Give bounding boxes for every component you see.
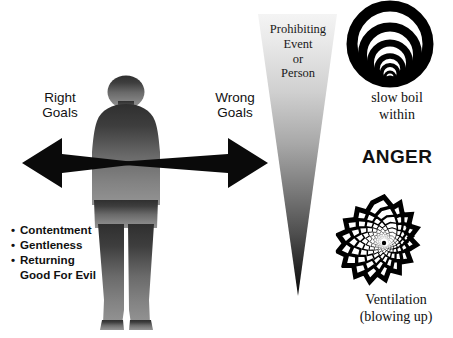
label-anger: ANGER bbox=[346, 146, 448, 167]
label-prohibiting-event-or-person: Prohibiting Event or Person bbox=[256, 22, 340, 81]
list-item: Contentment bbox=[11, 222, 136, 237]
list-item: Gentleness bbox=[11, 237, 136, 252]
diagram-artwork bbox=[0, 0, 453, 338]
concentric-rings-graphic bbox=[352, 6, 428, 82]
anger-diagram-page: Right Goals Wrong Goals Prohibiting Even… bbox=[0, 0, 453, 338]
label-wrong-goals: Wrong Goals bbox=[196, 90, 274, 120]
label-right-goals: Right Goals bbox=[18, 90, 102, 120]
label-slow-boil-within: slow boil within bbox=[346, 90, 448, 123]
list-item: Returning Good For Evil bbox=[11, 252, 136, 282]
person-silhouette bbox=[92, 76, 160, 331]
virtue-bullet-list: Contentment Gentleness Returning Good Fo… bbox=[11, 222, 136, 282]
label-ventilation-blowing-up: Ventilation (blowing up) bbox=[340, 292, 452, 326]
starburst-explosion-graphic bbox=[338, 197, 417, 282]
